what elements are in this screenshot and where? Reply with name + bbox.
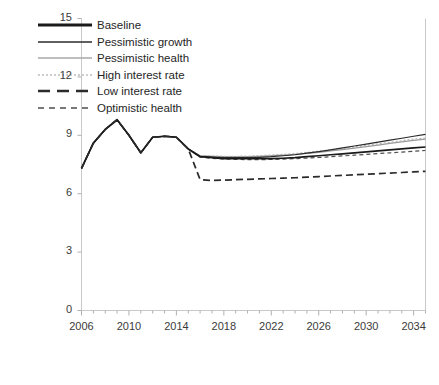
- legend-line-swatch: [38, 51, 92, 65]
- series-line-pessimistic-growth: [82, 120, 426, 169]
- legend-item[interactable]: Pessimistic growth: [38, 34, 213, 51]
- series-line-low-interest-rate: [82, 120, 426, 181]
- x-axis-tick-label: 2006: [59, 320, 105, 332]
- y-axis-tick-label: 15: [40, 11, 72, 23]
- legend-item[interactable]: Pessimistic health: [38, 50, 213, 67]
- series-line-high-interest-rate: [82, 120, 426, 169]
- legend-item-label: Low interest rate: [97, 85, 182, 97]
- y-axis-tick-label: 12: [40, 69, 72, 81]
- x-axis-tick-label: 2022: [248, 320, 294, 332]
- y-axis-tick-label: 9: [40, 127, 72, 139]
- x-axis-tick-label: 2034: [391, 320, 437, 332]
- y-axis-tick-label: 3: [40, 244, 72, 256]
- legend-item[interactable]: Optimistic health: [38, 100, 213, 117]
- chart-container: BaselinePessimistic growthPessimistic he…: [0, 0, 439, 385]
- legend-item-label: Optimistic health: [97, 102, 182, 114]
- x-axis-tick-label: 2026: [296, 320, 342, 332]
- y-axis-tick-label: 0: [40, 303, 72, 315]
- y-axis-tick-label: 6: [40, 186, 72, 198]
- legend-line-swatch: [38, 35, 92, 49]
- series-line-pessimistic-health: [82, 120, 426, 169]
- x-axis-tick-label: 2014: [153, 320, 199, 332]
- series-line-optimistic-health: [82, 120, 426, 169]
- x-axis-tick-label: 2030: [343, 320, 389, 332]
- legend-line-swatch: [38, 101, 92, 115]
- x-axis-tick-label: 2018: [201, 320, 247, 332]
- x-axis-tick-label: 2010: [106, 320, 152, 332]
- series-line-baseline: [82, 120, 426, 169]
- legend-item[interactable]: Low interest rate: [38, 83, 213, 100]
- legend-item-label: Pessimistic growth: [97, 36, 192, 48]
- chart-legend: BaselinePessimistic growthPessimistic he…: [38, 17, 213, 116]
- legend-item-label: Baseline: [97, 19, 141, 31]
- legend-item-label: High interest rate: [97, 69, 185, 81]
- legend-item-label: Pessimistic health: [97, 52, 189, 64]
- legend-line-swatch: [38, 84, 92, 98]
